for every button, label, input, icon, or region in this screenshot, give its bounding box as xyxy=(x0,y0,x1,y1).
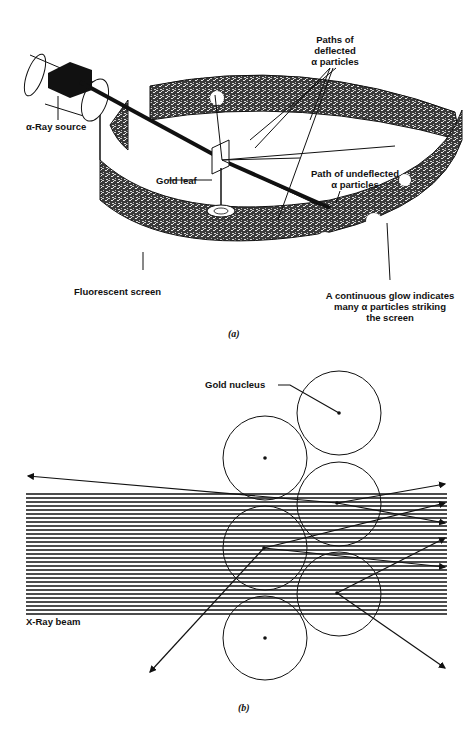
deflected-label-line3: α particles xyxy=(308,56,362,67)
glow-label-line1: A continuous glow indicates xyxy=(325,290,455,301)
glow-leader xyxy=(387,223,390,280)
alpha-source-icon xyxy=(20,52,114,125)
undeflected-path-label: Path of undeflected α particles xyxy=(300,168,410,190)
figure-a-caption: (a) xyxy=(228,328,240,339)
glow-spot-icon xyxy=(317,232,333,248)
glow-spot-icon xyxy=(210,91,224,105)
figure-b-caption: (b) xyxy=(238,702,250,713)
gold-leaf-label: Gold leaf xyxy=(156,175,197,186)
gold-nucleus-label: Gold nucleus xyxy=(205,379,265,390)
glow-spot-icon xyxy=(366,213,382,229)
x-ray-beam-label: X-Ray beam xyxy=(26,616,80,627)
deflected-label-line2: deflected xyxy=(308,45,362,56)
fluorescent-screen-label: Fluorescent screen xyxy=(74,286,161,297)
rutherford-apparatus-diagram xyxy=(0,0,475,749)
glow-label-line3: the screen xyxy=(325,312,455,323)
glow-label: A continuous glow indicates many α parti… xyxy=(325,290,455,323)
alpha-source-label: α-Ray source xyxy=(26,121,86,132)
undeflected-label-line2: α particles xyxy=(300,179,410,190)
fluorescent-screen-back xyxy=(150,75,460,140)
deflected-paths-label: Paths of deflected α particles xyxy=(308,34,362,67)
glow-label-line2: many α particles striking xyxy=(325,301,455,312)
undeflected-label-line1: Path of undeflected xyxy=(300,168,410,179)
deflected-rays xyxy=(28,385,445,672)
deflected-label-line1: Paths of xyxy=(308,34,362,45)
